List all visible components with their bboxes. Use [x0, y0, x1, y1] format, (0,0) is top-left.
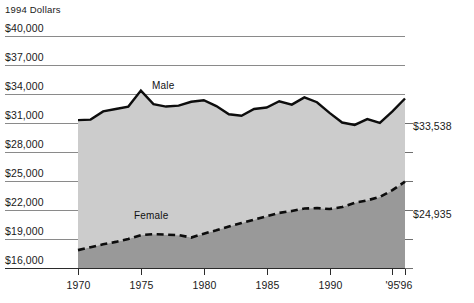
x-tick-label-1975: 1975 — [130, 279, 154, 291]
female-series-annotation: Female — [134, 210, 169, 221]
income-by-gender-area-chart: 1994 Dollars $40,000$37,000$34,000$31,00… — [0, 0, 474, 303]
y-tick-label-16000: $16,000 — [5, 254, 44, 266]
y-tick-label-22000: $22,000 — [5, 196, 44, 208]
male-end-value-label: $33,538 — [413, 120, 452, 132]
female-end-value-label: $24,935 — [413, 208, 452, 220]
x-tick-label-1980: 1980 — [193, 279, 217, 291]
x-tick-label-1970: 1970 — [67, 279, 91, 291]
y-tick-label-40000: $40,000 — [5, 22, 44, 34]
y-tick-label-31000: $31,000 — [5, 109, 44, 121]
x-axis-labels-group: 19701975198019851990'95'96 — [67, 279, 413, 291]
y-tick-label-28000: $28,000 — [5, 138, 44, 150]
x-tick-label-1995: '95 — [386, 279, 400, 291]
chart-canvas: 1994 Dollars $40,000$37,000$34,000$31,00… — [0, 0, 474, 303]
y-tick-label-34000: $34,000 — [5, 80, 44, 92]
y-tick-label-19000: $19,000 — [5, 225, 44, 237]
x-tick-label-1996: '96 — [399, 279, 413, 291]
male-series-annotation: Male — [152, 80, 175, 91]
y-tick-label-37000: $37,000 — [5, 51, 44, 63]
x-tick-label-1990: 1990 — [319, 279, 343, 291]
unit-note-label: 1994 Dollars — [5, 4, 61, 15]
x-tick-label-1985: 1985 — [256, 279, 280, 291]
right-axis-ticks-group — [405, 124, 413, 269]
y-axis-labels-group: $40,000$37,000$34,000$31,000$28,000$25,0… — [5, 22, 44, 266]
y-tick-label-25000: $25,000 — [5, 167, 44, 179]
